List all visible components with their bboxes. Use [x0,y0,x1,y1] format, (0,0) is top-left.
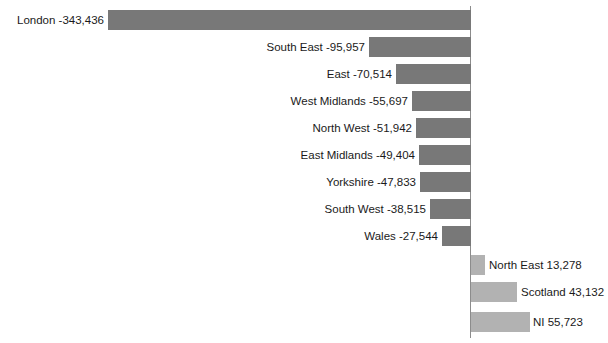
bar-wales[interactable] [442,226,471,246]
bar-chart: London -343,436South East -95,957East -7… [0,0,608,343]
bar-label: West Midlands -55,697 [248,91,408,111]
bar-ni[interactable] [471,312,530,332]
bar-label: London -343,436 [0,10,104,30]
bar-south-west[interactable] [430,199,471,219]
bar-label: Yorkshire -47,833 [282,172,416,192]
bar-north-east[interactable] [471,255,485,275]
bar-label: East -70,514 [290,64,392,84]
bar-scotland[interactable] [471,282,517,302]
bar-london[interactable] [108,10,471,30]
bar-label: North West -51,942 [272,118,412,138]
bar-east[interactable] [396,64,471,84]
bar-yorkshire[interactable] [420,172,471,192]
bar-row: North West -51,942 [0,118,608,138]
bar-row: West Midlands -55,697 [0,91,608,111]
bar-row: Scotland 43,132 [0,282,608,302]
bar-rows-container: London -343,436South East -95,957East -7… [0,0,608,343]
bar-row: Wales -27,544 [0,226,608,246]
bar-row: East -70,514 [0,64,608,84]
bar-label: South East -95,957 [230,37,365,57]
bar-row: South West -38,515 [0,199,608,219]
bar-label: East Midlands -49,404 [255,145,415,165]
bar-label: North East 13,278 [489,255,608,275]
bar-label: Wales -27,544 [320,226,438,246]
bar-west-midlands[interactable] [412,91,471,111]
bar-row: East Midlands -49,404 [0,145,608,165]
bar-row: North East 13,278 [0,255,608,275]
bar-row: NI 55,723 [0,312,608,332]
bar-row: South East -95,957 [0,37,608,57]
bar-label: Scotland 43,132 [521,282,608,302]
bar-row: London -343,436 [0,10,608,30]
bar-label: NI 55,723 [533,312,608,332]
bar-row: Yorkshire -47,833 [0,172,608,192]
bar-south-east[interactable] [369,37,471,57]
bar-east-midlands[interactable] [419,145,471,165]
bar-label: South West -38,515 [282,199,426,219]
bar-north-west[interactable] [416,118,471,138]
